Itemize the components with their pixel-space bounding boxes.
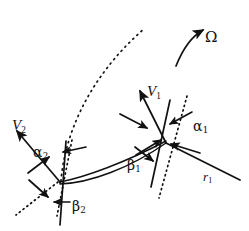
label-v1-sub: 1 bbox=[156, 91, 161, 101]
label-v2-sub: 2 bbox=[21, 125, 26, 135]
outlet-relative-velocity-arrow bbox=[29, 180, 48, 197]
label-beta1-text: β bbox=[127, 157, 135, 173]
label-omega-text: Ω bbox=[205, 28, 217, 46]
label-omega: Ω bbox=[205, 30, 217, 45]
label-r1: r1 bbox=[203, 170, 212, 185]
label-v1: V1 bbox=[147, 84, 161, 101]
inlet-blade-tangent-arrow bbox=[136, 140, 161, 155]
label-alpha2-sub: 2 bbox=[42, 151, 48, 161]
label-alpha1-sub: 1 bbox=[202, 125, 208, 135]
label-beta1-sub: 1 bbox=[135, 164, 141, 174]
label-alpha1: α1 bbox=[193, 119, 208, 135]
omega-rotation-arc-arrow bbox=[176, 30, 203, 66]
label-v2: V2 bbox=[12, 118, 26, 135]
alpha1-angle-arrow bbox=[170, 112, 192, 124]
label-beta2: β2 bbox=[72, 199, 86, 215]
label-beta2-text: β bbox=[72, 198, 80, 214]
label-beta1: β1 bbox=[127, 158, 141, 174]
label-alpha2: α2 bbox=[33, 145, 48, 161]
inlet-relative-velocity-arrow bbox=[120, 114, 147, 128]
label-r1-sub: 1 bbox=[208, 176, 212, 185]
label-beta2-sub: 2 bbox=[80, 205, 86, 215]
velocity-triangle-figure: V2 V1 α1 α2 β1 β2 r1 Ω bbox=[0, 0, 249, 231]
label-v2-text: V bbox=[12, 117, 21, 133]
label-v1-text: V bbox=[147, 83, 156, 99]
